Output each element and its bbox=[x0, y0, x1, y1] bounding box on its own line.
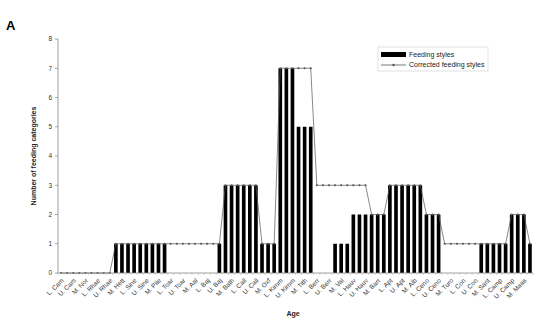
y-tick-label: 8 bbox=[48, 35, 52, 42]
line-marker bbox=[383, 213, 385, 215]
line-marker bbox=[450, 243, 452, 245]
line-marker bbox=[243, 184, 245, 186]
line-marker bbox=[456, 243, 458, 245]
axes bbox=[58, 39, 533, 273]
bar bbox=[388, 185, 392, 273]
bar bbox=[358, 215, 362, 274]
line-marker bbox=[255, 184, 257, 186]
line-marker bbox=[291, 67, 293, 69]
line-marker bbox=[517, 213, 519, 215]
line-marker bbox=[468, 243, 470, 245]
bar-series-feeding-styles bbox=[114, 68, 532, 273]
line-marker bbox=[297, 67, 299, 69]
panel-letter: A bbox=[6, 18, 16, 33]
line-marker bbox=[438, 213, 440, 215]
y-axis-title: Number of feeding categories bbox=[30, 106, 38, 205]
line-marker bbox=[407, 184, 409, 186]
bar bbox=[285, 68, 289, 273]
line-marker bbox=[316, 184, 318, 186]
bar bbox=[242, 185, 246, 273]
bar bbox=[419, 185, 423, 273]
bar bbox=[151, 244, 155, 273]
line-marker bbox=[358, 184, 360, 186]
line-marker bbox=[462, 243, 464, 245]
feeding-styles-chart: A 012345678 L. CamU. CamM. NorL. RhaeU. … bbox=[0, 0, 559, 335]
line-marker bbox=[121, 243, 123, 245]
line-marker bbox=[364, 184, 366, 186]
line-marker bbox=[511, 213, 513, 215]
line-marker bbox=[163, 243, 165, 245]
legend-label-corrected-feeding-styles: Corrected feeding styles bbox=[409, 61, 485, 69]
bar bbox=[114, 244, 118, 273]
line-marker bbox=[285, 67, 287, 69]
line-marker bbox=[249, 184, 251, 186]
line-marker bbox=[182, 243, 184, 245]
line-marker bbox=[151, 243, 153, 245]
y-tick-label: 1 bbox=[48, 240, 52, 247]
legend-marker bbox=[392, 64, 394, 66]
bar bbox=[376, 215, 380, 274]
bar bbox=[528, 244, 532, 273]
line-marker bbox=[425, 213, 427, 215]
bar bbox=[120, 244, 124, 273]
line-marker bbox=[352, 184, 354, 186]
line-marker bbox=[273, 243, 275, 245]
line-marker bbox=[212, 243, 214, 245]
line-marker bbox=[377, 213, 379, 215]
bar bbox=[504, 244, 508, 273]
bar bbox=[157, 244, 161, 273]
line-marker bbox=[304, 67, 306, 69]
line-marker bbox=[218, 243, 220, 245]
bar bbox=[364, 215, 368, 274]
line-marker bbox=[395, 184, 397, 186]
x-tick-labels: L. CamU. CamM. NorL. RhaeU. RhaeM. HettL… bbox=[45, 273, 533, 301]
bar bbox=[412, 185, 416, 273]
line-marker bbox=[480, 243, 482, 245]
y-tick-labels: 012345678 bbox=[48, 35, 58, 276]
bar bbox=[260, 244, 264, 273]
line-marker bbox=[170, 243, 172, 245]
bar bbox=[431, 215, 435, 274]
x-axis-title: Age bbox=[286, 310, 299, 318]
bar bbox=[230, 185, 234, 273]
line-series-corrected-feeding-styles bbox=[60, 67, 531, 274]
line-marker bbox=[413, 184, 415, 186]
legend-bar-swatch bbox=[381, 52, 406, 57]
line-marker bbox=[176, 243, 178, 245]
line-marker bbox=[431, 213, 433, 215]
legend-label-feeding-styles: Feeding styles bbox=[409, 51, 455, 59]
bar bbox=[248, 185, 252, 273]
y-tick-label: 0 bbox=[48, 269, 52, 276]
line-marker bbox=[115, 243, 117, 245]
bar bbox=[291, 68, 295, 273]
line-marker bbox=[188, 243, 190, 245]
bar bbox=[492, 244, 496, 273]
bar bbox=[297, 127, 301, 273]
bar bbox=[272, 244, 276, 273]
bar bbox=[303, 127, 307, 273]
line-marker bbox=[401, 184, 403, 186]
line-marker bbox=[504, 243, 506, 245]
line-marker bbox=[127, 243, 129, 245]
line-marker bbox=[322, 184, 324, 186]
bar bbox=[437, 215, 441, 274]
line-marker bbox=[389, 184, 391, 186]
bar bbox=[144, 244, 148, 273]
line-marker bbox=[346, 184, 348, 186]
corrected-line bbox=[61, 68, 530, 273]
bar bbox=[400, 185, 404, 273]
bar bbox=[394, 185, 398, 273]
line-marker bbox=[334, 184, 336, 186]
bar bbox=[425, 215, 429, 274]
line-marker bbox=[444, 243, 446, 245]
line-marker bbox=[371, 213, 373, 215]
line-marker bbox=[224, 184, 226, 186]
bar bbox=[479, 244, 483, 273]
bar bbox=[132, 244, 136, 273]
bar bbox=[370, 215, 374, 274]
line-marker bbox=[157, 243, 159, 245]
bar bbox=[236, 185, 240, 273]
line-marker bbox=[133, 243, 135, 245]
line-marker bbox=[492, 243, 494, 245]
bar bbox=[522, 215, 526, 274]
